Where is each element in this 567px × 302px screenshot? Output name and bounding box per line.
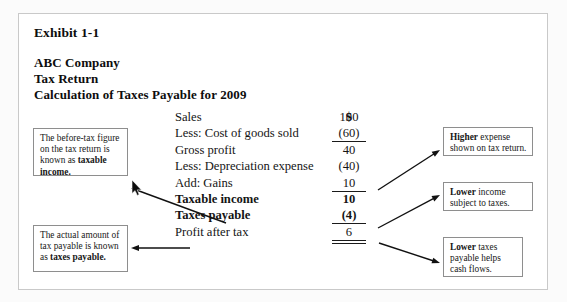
statement-row-label: Profit after tax: [175, 225, 248, 240]
statement-row-label: Less: Cost of goods sold: [175, 126, 299, 141]
callout-taxable-income: The before-tax figure on the tax return …: [33, 128, 128, 176]
statement-row-label: Add: Gains: [175, 176, 233, 191]
statement-row-value: (40): [325, 159, 373, 174]
statement-row-value: (60): [325, 126, 373, 141]
statement-row-label: Less: Depreciation expense: [175, 159, 313, 174]
statement-row: Taxes payable(4): [175, 208, 390, 224]
statement-row-label: Taxes payable: [175, 208, 250, 223]
statement-row-label: Sales: [175, 110, 202, 125]
statement-row-value: 100: [325, 110, 373, 125]
document-subtitle: Calculation of Taxes Payable for 2009: [34, 87, 247, 103]
exhibit-number: Exhibit 1-1: [34, 25, 99, 41]
callout-higher-expense-emphasis: Higher: [450, 132, 478, 142]
mouse-pointer-icon: [131, 180, 143, 196]
statement-row: Sales100: [175, 110, 390, 126]
callout-tax-payable-emphasis: taxes payable.: [50, 252, 106, 262]
statement-row-value: (4): [325, 208, 373, 223]
callout-lower-income: Lower income subject to taxes.: [443, 182, 533, 211]
exhibit-page: Exhibit 1-1 ABC Company Tax Return Calcu…: [0, 0, 567, 302]
statement-row: Less: Cost of goods sold(60): [175, 126, 390, 142]
callout-tax-payable: The actual amount of tax payable is know…: [33, 225, 128, 272]
tax-calculation-table: Sales100Less: Cost of goods sold(60)Gros…: [175, 110, 390, 241]
statement-row: Less: Depreciation expense(40): [175, 159, 390, 175]
statement-row-label: Gross profit: [175, 143, 236, 158]
callout-lower-income-emphasis: Lower: [450, 187, 476, 197]
statement-row-label: Taxable income: [175, 192, 259, 207]
statement-row-value: 10: [325, 192, 373, 207]
callout-lower-taxes-emphasis: Lower: [450, 242, 476, 252]
statement-row: Gross profit40: [175, 143, 390, 159]
statement-row-value: 40: [325, 143, 373, 158]
company-name: ABC Company: [34, 55, 120, 71]
statement-row: Add: Gains10: [175, 176, 390, 192]
statement-row-value: 10: [325, 176, 373, 191]
document-type: Tax Return: [34, 71, 98, 87]
statement-row: Profit after tax6: [175, 225, 390, 241]
statement-row: Taxable income10: [175, 192, 390, 208]
callout-higher-expense: Higher expense shown on tax return.: [443, 127, 533, 156]
statement-row-value: 6: [325, 225, 373, 240]
callout-lower-taxes: Lower taxes payable helps cash flows.: [443, 237, 523, 277]
